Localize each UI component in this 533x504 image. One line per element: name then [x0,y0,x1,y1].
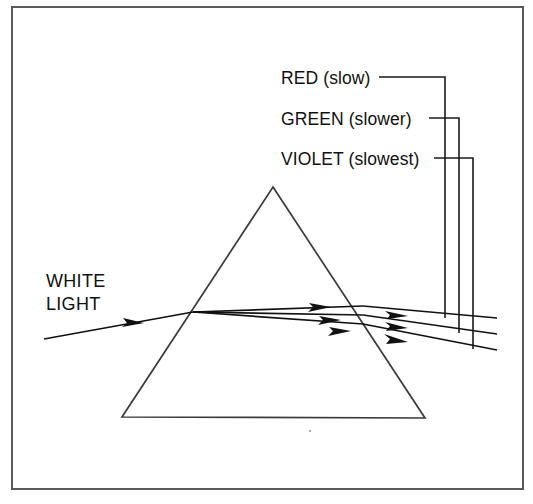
white-light-label-line2: LIGHT [46,294,101,314]
prism-dispersion-figure: RED (slow) GREEN (slower) VIOLET (slowes… [0,0,533,504]
scan-speck [309,430,311,432]
ray-label-red: RED (slow) [281,68,370,88]
ray-label-green: GREEN (slower) [281,109,412,129]
white-light-label-line1: WHITE [46,271,106,291]
diagram-canvas: RED (slow) GREEN (slower) VIOLET (slowes… [0,0,533,504]
ray-label-violet: VIOLET (slowest) [281,149,419,169]
